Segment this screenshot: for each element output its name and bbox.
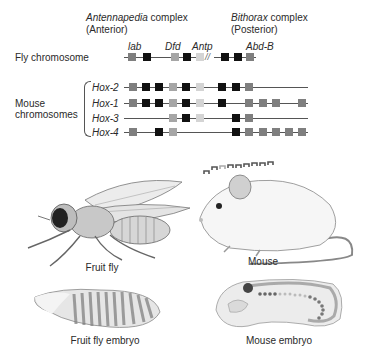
mouse-chromosome-line (124, 118, 308, 119)
mouse-gene-box (245, 128, 253, 136)
mouse-gene-box (232, 114, 240, 122)
hox-2-label: Hox-2 (92, 82, 119, 93)
bithorax-name: Bithorax (231, 12, 268, 23)
fly-gene-box (234, 53, 242, 61)
mouse-gene-box (196, 99, 204, 107)
mouse-gene-box (298, 128, 306, 136)
fly-gene-box (196, 53, 204, 61)
fly-gene-box (246, 53, 254, 61)
mouse-chromosome-line (124, 87, 308, 88)
mouse-gene-box (155, 83, 163, 91)
gene-lab: lab (128, 41, 141, 52)
fruit-fly-embryo-caption: Fruit fly embryo (60, 335, 150, 346)
mouse-gene-box (182, 99, 190, 107)
mouse-chromosome-line (124, 132, 308, 133)
fruit-fly-caption: Fruit fly (62, 262, 142, 273)
fly-gene-box (183, 53, 191, 61)
mouse-gene-box (169, 128, 177, 136)
mouse-gene-box (196, 114, 204, 122)
mouse-gene-box (232, 128, 240, 136)
mouse-gene-box (142, 83, 150, 91)
mouse-gene-box (218, 99, 226, 107)
fly-chromosome-line-left (124, 57, 204, 58)
antennapedia-suffix: complex (148, 12, 188, 23)
fly-chromosome-label: Fly chromosome (15, 52, 89, 63)
gene-antp: Antp (192, 41, 213, 52)
fruit-fly-embryo-illustration (30, 282, 165, 332)
hox-3-label: Hox-3 (92, 113, 119, 124)
brace-bracket (84, 81, 91, 137)
mouse-gene-box (259, 99, 267, 107)
bithorax-suffix: complex (268, 12, 308, 23)
mouse-chromosome-line (124, 103, 308, 104)
mouse-gene-box (196, 83, 204, 91)
bithorax-subtitle: (Posterior) (231, 24, 278, 35)
mouse-gene-box (272, 99, 280, 107)
mouse-gene-box (298, 99, 306, 107)
mouse-gene-box (232, 83, 240, 91)
antennapedia-title: Antennapedia complex (86, 12, 188, 23)
mouse-gene-box (182, 114, 190, 122)
fly-gene-box (128, 53, 136, 61)
antennapedia-name: Antennapedia (86, 12, 148, 23)
mouse-gene-box (182, 83, 190, 91)
mouse-gene-box (272, 128, 280, 136)
hox-4-label: Hox-4 (92, 127, 119, 138)
hox-1-label: Hox-1 (92, 98, 119, 109)
mouse-illustration (190, 160, 365, 268)
mouse-gene-box (285, 128, 293, 136)
mouse-gene-box (155, 99, 163, 107)
mouse-gene-box (259, 128, 267, 136)
mouse-gene-box (218, 83, 226, 91)
bithorax-title: Bithorax complex (231, 12, 308, 23)
mouse-caption: Mouse (228, 256, 298, 267)
mouse-gene-box (129, 83, 137, 91)
mouse-gene-box (142, 99, 150, 107)
mouse-gene-box (129, 128, 137, 136)
mouse-gene-box (169, 99, 177, 107)
antennapedia-subtitle: (Anterior) (86, 24, 128, 35)
chromosome-break-marker: // (205, 52, 210, 63)
mouse-gene-box (169, 83, 177, 91)
fly-gene-box (221, 53, 229, 61)
mouse-chromosomes-label-line1: Mouse (15, 98, 45, 109)
mouse-gene-box (245, 83, 253, 91)
fruit-fly-illustration (10, 160, 190, 270)
mouse-gene-box (169, 114, 177, 122)
fly-gene-box (143, 53, 151, 61)
mouse-gene-box (129, 99, 137, 107)
gene-abd-b: Abd-B (246, 41, 274, 52)
mouse-gene-box (245, 99, 253, 107)
mouse-gene-box (155, 128, 163, 136)
mouse-embryo-caption: Mouse embryo (234, 335, 324, 346)
gene-dfd: Dfd (165, 41, 181, 52)
mouse-chromosomes-label-line2: chromosomes (15, 109, 78, 120)
mouse-embryo-illustration (208, 274, 348, 336)
fly-gene-box (171, 53, 179, 61)
mouse-gene-box (245, 114, 253, 122)
